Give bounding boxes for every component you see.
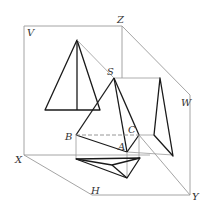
- label-z: Z: [116, 14, 125, 25]
- v-projection: [45, 40, 100, 110]
- label-x: X: [14, 154, 23, 165]
- label-a: A: [117, 141, 125, 152]
- v-projection-triangle: [45, 40, 100, 110]
- z-w-edge: [122, 26, 190, 95]
- edge-sb: [76, 78, 114, 135]
- label-s: S: [107, 66, 114, 77]
- c-y-edge: [139, 135, 190, 195]
- v-plane-frame: [24, 26, 122, 155]
- a-to-w-projector: [127, 152, 173, 155]
- label-c: C: [128, 124, 136, 135]
- w-projection-triangle: [154, 78, 173, 156]
- label-w: W: [181, 97, 192, 108]
- h-projection-inner-edge-bottom: [112, 165, 127, 178]
- label-y: Y: [192, 191, 200, 202]
- label-b: B: [64, 131, 72, 142]
- h-projection: [76, 158, 140, 178]
- pyramid: [76, 78, 139, 152]
- projection-diagram: V Z S W X B C A H Y: [0, 0, 211, 209]
- label-v: V: [27, 27, 36, 38]
- label-h: H: [90, 185, 100, 196]
- edge-ac: [127, 135, 139, 152]
